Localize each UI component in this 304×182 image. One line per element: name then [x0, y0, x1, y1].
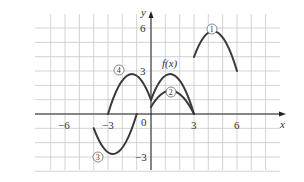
x-tick-label: −3	[102, 119, 114, 131]
y-tick-label: 6	[140, 22, 146, 34]
curve-3	[94, 114, 137, 154]
svg-text:4: 4	[117, 66, 121, 75]
svg-text:1: 1	[210, 25, 214, 34]
x-axis-arrow-icon	[279, 112, 286, 117]
x-tick-label: 3	[191, 119, 197, 131]
y-tick-label: −3	[135, 151, 147, 163]
y-axis-label: y	[140, 6, 146, 18]
grid	[35, 14, 280, 171]
x-axis-label: x	[279, 118, 285, 130]
label-4: 4	[114, 65, 124, 75]
curve-1	[194, 31, 237, 71]
origin-label: 0	[141, 116, 147, 128]
curve-4	[108, 74, 151, 114]
function-transformations-chart: x y −6 −3 0 3 6 6 3 −3 f(x) 1 2 3 4	[0, 0, 304, 182]
y-tick-label: 3	[140, 65, 146, 77]
svg-text:3: 3	[96, 153, 100, 162]
y-axis-arrow-icon	[149, 11, 154, 18]
label-3: 3	[93, 152, 103, 162]
label-1: 1	[207, 24, 217, 34]
label-2: 2	[166, 87, 176, 97]
svg-text:2: 2	[169, 88, 173, 97]
x-tick-label: 6	[234, 119, 240, 131]
fx-label: f(x)	[162, 57, 178, 70]
x-tick-label: −6	[58, 119, 70, 131]
